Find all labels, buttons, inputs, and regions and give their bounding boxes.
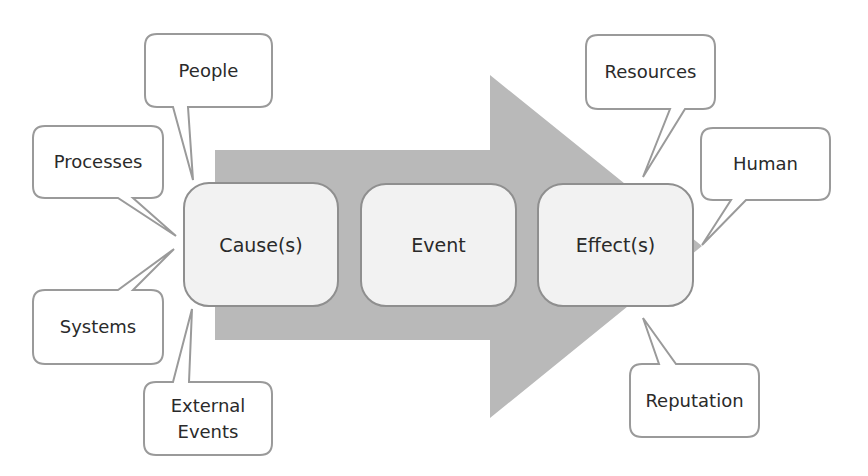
stage-cause-label: Cause(s) — [219, 234, 302, 256]
effect-human-label: Human — [701, 128, 830, 200]
stage-event-label: Event — [411, 234, 465, 256]
cause-systems-label: Systems — [33, 290, 163, 364]
stage-effect-label: Effect(s) — [576, 234, 655, 256]
cause-people-label: People — [145, 34, 272, 107]
effect-reputation-label: Reputation — [630, 364, 759, 437]
cause-external-events-label: External Events — [144, 382, 272, 455]
cause-processes-label: Processes — [33, 126, 163, 198]
stage-event-box: Event — [360, 183, 517, 307]
effect-resources-label: Resources — [586, 35, 715, 109]
stage-cause-box: Cause(s) — [183, 182, 339, 307]
stage-effect-box: Effect(s) — [537, 183, 694, 307]
